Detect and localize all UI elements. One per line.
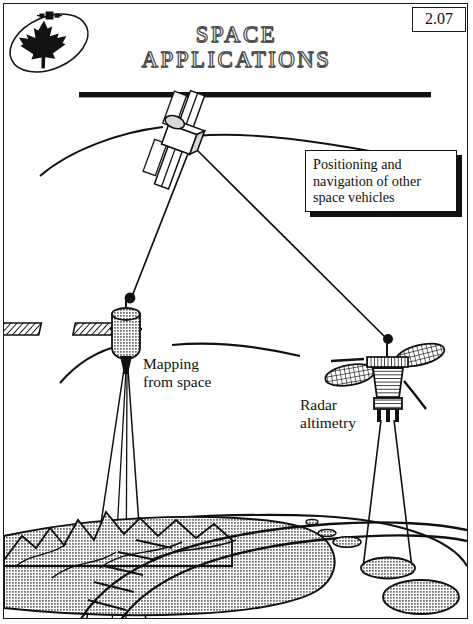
label-mapping-from-space: Mapping from space [143,355,211,390]
label-radar-altimetry: Radar altimetry [300,396,356,431]
page-border [3,3,468,619]
page-root: 2.07 SPACE APPLICATIONS Positioning and … [0,0,473,624]
page-number: 2.07 [412,7,466,32]
callout-positioning-navigation: Positioning and navigation of other spac… [305,150,457,212]
